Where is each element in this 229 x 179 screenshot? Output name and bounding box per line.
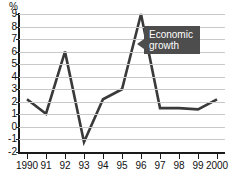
x-tick-label-98: 98 (173, 160, 184, 171)
gridline-4 (19, 77, 225, 78)
y-tick-mark-neg1 (16, 139, 19, 140)
y-axis-tick-labels: 9876543210-1-2 (0, 0, 17, 179)
callout-line-1: Economic (149, 29, 196, 40)
x-tick-label-91: 91 (40, 160, 51, 171)
x-tick-label-94: 94 (97, 160, 108, 171)
y-tick-mark-1 (16, 114, 19, 115)
x-tick-mark-97 (160, 154, 161, 159)
y-tick-mark-0 (16, 127, 19, 128)
y-tick-mark-8 (16, 27, 19, 28)
y-tick-mark-9 (16, 14, 19, 15)
callout-line-2: growth (149, 40, 196, 51)
y-tick-mark-7 (16, 39, 19, 40)
x-tick-mark-91 (46, 154, 47, 159)
gridline-3 (19, 89, 225, 90)
gridline-2 (19, 102, 225, 103)
x-tick-label-99: 99 (192, 160, 203, 171)
x-tick-label-93: 93 (78, 160, 89, 171)
x-tick-label-97: 97 (154, 160, 165, 171)
y-tick-mark-4 (16, 77, 19, 78)
gridline-5 (19, 64, 225, 65)
x-tick-mark-94 (103, 154, 104, 159)
y-tick-mark-2 (16, 102, 19, 103)
y-tick-mark-3 (16, 89, 19, 90)
economic-growth-callout: Economic growth (144, 26, 200, 54)
y-tick-mark-5 (16, 64, 19, 65)
x-tick-label-1990: 1990 (16, 160, 38, 171)
y-tick-mark-neg2 (16, 152, 19, 153)
gridline-9 (19, 14, 225, 15)
x-tick-label-92: 92 (59, 160, 70, 171)
y-tick-mark-6 (16, 52, 19, 53)
x-tick-mark-99 (198, 154, 199, 159)
x-tick-mark-1990 (27, 154, 28, 159)
x-tick-mark-93 (84, 154, 85, 159)
x-tick-mark-98 (179, 154, 180, 159)
x-tick-mark-2000 (217, 154, 218, 159)
x-tick-mark-92 (65, 154, 66, 159)
gridline-1 (19, 114, 225, 115)
x-tick-label-2000: 2000 (206, 160, 228, 171)
x-tick-label-96: 96 (135, 160, 146, 171)
callout-arrow-icon (137, 39, 144, 49)
x-tick-mark-96 (141, 154, 142, 159)
economic-growth-line-chart: % 9876543210-1-2 Economic growth 1990919… (0, 0, 229, 179)
x-tick-label-95: 95 (116, 160, 127, 171)
x-tick-mark-95 (122, 154, 123, 159)
gridline-0 (19, 127, 225, 128)
gridline-neg1 (19, 139, 225, 140)
